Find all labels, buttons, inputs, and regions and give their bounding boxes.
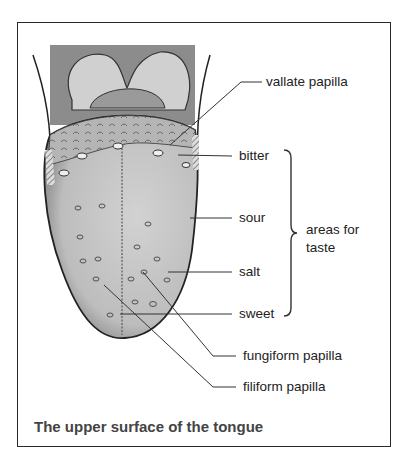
label-salt: salt [239, 265, 260, 279]
tongue [44, 116, 199, 339]
label-taste: taste [306, 241, 335, 255]
figure-caption: The upper surface of the tongue [34, 418, 263, 435]
label-sweet: sweet [239, 307, 274, 321]
taste-brace [284, 150, 297, 316]
label-vallate-papilla: vallate papilla [266, 75, 348, 89]
right-arch [198, 55, 211, 165]
label-filiform-papilla: filiform papilla [243, 380, 326, 394]
label-areas-for: areas for [306, 223, 359, 237]
label-sour: sour [239, 211, 265, 225]
label-fungiform-papilla: fungiform papilla [243, 349, 342, 363]
label-bitter: bitter [239, 149, 269, 163]
